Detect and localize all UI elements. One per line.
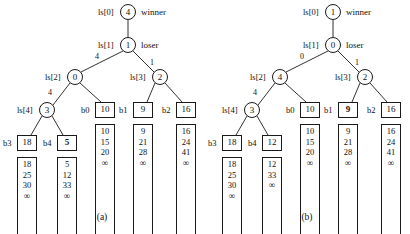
buffer-item: 20 [301, 147, 319, 158]
edge-label-edge-ls1-left: 4 [95, 52, 99, 61]
buffer-item: 15 [301, 137, 319, 148]
buffer-item: 5 [58, 159, 76, 170]
buffer-item: 28 [134, 147, 152, 158]
buffer-item: 20 [96, 147, 114, 158]
leaf-box-b2: 16 [176, 102, 196, 118]
buffer-item: ∞ [58, 191, 76, 202]
buffer-b2: 162441∞ [176, 124, 196, 234]
leaf-box-b1: 9 [338, 102, 358, 118]
node-label-ls4: ls[4] [222, 106, 238, 115]
edge-label-edge-ls1-right: 1 [355, 58, 359, 67]
edge-label-edge-ls1-left: 0 [300, 52, 304, 61]
buffer-b4: 51233∞ [57, 157, 77, 234]
buffer-item: 24 [382, 137, 400, 148]
node-ls2: 0 [67, 69, 83, 85]
buffer-item: 9 [134, 126, 152, 137]
node-label-ls1: ls[1] [98, 41, 114, 50]
leaf-label-b2: b2 [162, 106, 171, 115]
buffer-item: 18 [18, 159, 36, 170]
leaf-label-b4: b4 [248, 139, 257, 148]
node-label-ls0: ls[0] [98, 8, 114, 17]
node-label-ls0: ls[0] [303, 8, 319, 17]
buffer-item: 28 [339, 147, 357, 158]
buffer-b4: 1233∞ [262, 157, 282, 234]
buffer-item: 18 [223, 159, 241, 170]
buffer-item: 30 [18, 180, 36, 191]
buffer-b1: 92128∞ [338, 124, 358, 234]
leaf-label-b1: b1 [324, 106, 333, 115]
buffer-item: ∞ [177, 158, 195, 169]
edge-label-edge-ls2-left: 4 [253, 88, 257, 97]
buffer-item: 25 [18, 170, 36, 181]
buffer-item: 15 [96, 137, 114, 148]
leaf-label-b1: b1 [119, 106, 128, 115]
buffer-b1: 92128∞ [133, 124, 153, 234]
leaf-label-b3: b3 [3, 139, 12, 148]
leaf-box-b4: 12 [262, 135, 282, 151]
buffer-item: 33 [263, 170, 281, 181]
leaf-label-b3: b3 [208, 139, 217, 148]
buffer-item: ∞ [134, 158, 152, 169]
leaf-box-b2: 16 [381, 102, 401, 118]
node-ls4: 3 [244, 102, 260, 118]
buffer-item: ∞ [301, 158, 319, 169]
node-annotation-ls0: winner [141, 8, 166, 17]
buffer-item: ∞ [382, 158, 400, 169]
node-ls0: 1 [325, 4, 341, 20]
node-ls3: 2 [357, 69, 373, 85]
node-annotation-ls1: loser [141, 41, 159, 50]
leaf-box-b0: 10 [300, 102, 320, 118]
buffer-item: 16 [382, 126, 400, 137]
buffer-item: 21 [339, 137, 357, 148]
node-label-ls2: ls[2] [250, 73, 266, 82]
node-label-ls4: ls[4] [17, 106, 33, 115]
buffer-item: 12 [263, 159, 281, 170]
leaf-label-b0: b0 [81, 106, 90, 115]
buffer-item: 25 [223, 170, 241, 181]
buffer-item: 33 [58, 180, 76, 191]
buffer-item: ∞ [96, 158, 114, 169]
node-annotation-ls0: winner [346, 8, 371, 17]
leaf-label-b2: b2 [367, 106, 376, 115]
buffer-item: ∞ [263, 180, 281, 191]
leaf-label-b0: b0 [286, 106, 295, 115]
buffer-item: 24 [177, 137, 195, 148]
buffer-item: 9 [339, 126, 357, 137]
node-label-ls1: ls[1] [303, 41, 319, 50]
leaf-box-b1: 9 [133, 102, 153, 118]
node-label-ls3: ls[3] [335, 73, 351, 82]
buffer-item: ∞ [223, 191, 241, 202]
node-ls1: 1 [120, 37, 136, 53]
leaf-box-b0: 10 [95, 102, 115, 118]
buffer-item: 10 [96, 126, 114, 137]
buffer-item: 10 [301, 126, 319, 137]
leaf-label-b4: b4 [43, 139, 52, 148]
buffer-b2: 162441∞ [381, 124, 401, 234]
buffer-b3: 182530∞ [17, 157, 37, 234]
figure-b: 1ls[0]winner0ls[1]loser4ls[2]2ls[3]3ls[4… [205, 0, 410, 234]
buffer-item: ∞ [18, 191, 36, 202]
node-ls4: 3 [39, 102, 55, 118]
edge-label-edge-ls2-left: 4 [48, 88, 52, 97]
node-label-ls3: ls[3] [130, 73, 146, 82]
buffer-item: 16 [177, 126, 195, 137]
edge-label-edge-ls1-right: 1 [150, 58, 154, 67]
figure-a: 4ls[0]winner1ls[1]loser0ls[2]2ls[3]3ls[4… [0, 0, 205, 234]
figure-caption-b: (b) [277, 212, 337, 222]
figure-caption-a: (a) [72, 212, 132, 222]
leaf-box-b3: 18 [222, 135, 242, 151]
buffer-item: 12 [58, 170, 76, 181]
buffer-item: 41 [382, 147, 400, 158]
leaf-box-b4: 5 [57, 135, 77, 151]
node-label-ls2: ls[2] [45, 73, 61, 82]
buffer-item: ∞ [339, 158, 357, 169]
buffer-b3: 182530∞ [222, 157, 242, 234]
buffer-item: 21 [134, 137, 152, 148]
buffer-item: 30 [223, 180, 241, 191]
node-ls3: 2 [152, 69, 168, 85]
node-ls0: 4 [120, 4, 136, 20]
node-ls2: 4 [272, 69, 288, 85]
node-annotation-ls1: loser [346, 41, 364, 50]
buffer-item: 41 [177, 147, 195, 158]
node-ls1: 0 [325, 37, 341, 53]
